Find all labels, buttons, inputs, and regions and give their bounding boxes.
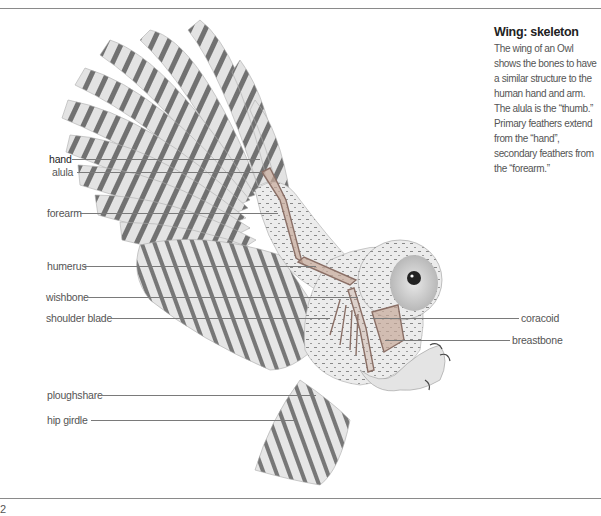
label-hip-girdle: hip girdle bbox=[47, 414, 88, 426]
label-alula: alula bbox=[52, 166, 73, 178]
label-wishbone: wishbone bbox=[46, 291, 89, 303]
owl-head bbox=[358, 240, 442, 320]
leader-shoulder-blade bbox=[110, 318, 330, 319]
label-coracoid: coracoid bbox=[521, 312, 559, 324]
label-hand: hand bbox=[49, 153, 72, 165]
leader-hand bbox=[72, 159, 260, 160]
bottom-rule bbox=[0, 498, 601, 499]
label-shoulder-blade: shoulder blade bbox=[46, 312, 112, 324]
primary-feathers bbox=[62, 20, 290, 262]
label-ploughshare: ploughshare bbox=[47, 389, 103, 401]
leader-humerus bbox=[84, 266, 316, 267]
leader-alula bbox=[77, 172, 262, 173]
leader-breastbone bbox=[385, 340, 510, 341]
label-humerus: humerus bbox=[47, 260, 86, 272]
leader-ploughshare bbox=[101, 395, 316, 396]
leader-wishbone bbox=[87, 297, 358, 298]
caption-title: Wing: skeleton bbox=[494, 25, 598, 39]
leader-forearm bbox=[80, 213, 278, 214]
label-forearm: forearm bbox=[47, 207, 82, 219]
caption-block: Wing: skeleton The wing of an Owl shows … bbox=[494, 25, 598, 176]
leader-hip-girdle bbox=[91, 420, 296, 421]
caption-body: The wing of an Owl shows the bones to ha… bbox=[494, 41, 598, 176]
leader-coracoid bbox=[370, 318, 519, 319]
page-number: 2 bbox=[0, 503, 6, 515]
label-breastbone: breastbone bbox=[512, 334, 563, 346]
